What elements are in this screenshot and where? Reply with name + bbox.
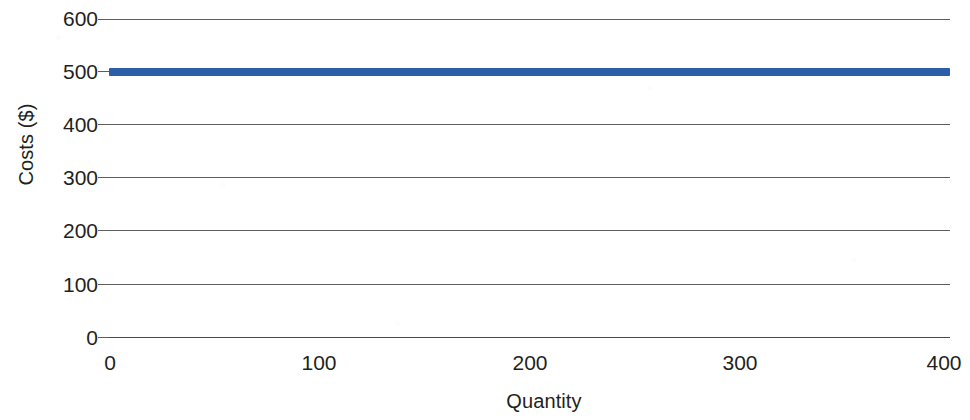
y-tick-stub-600 [98, 19, 109, 20]
gridline-100 [109, 284, 950, 285]
x-tick-label-300: 300 [722, 352, 757, 373]
y-tick-stub-500 [98, 71, 109, 72]
y-tick-stub-400 [98, 124, 109, 125]
y-tick-label-600: 600 [63, 8, 98, 29]
y-tick-stub-200 [98, 230, 109, 231]
x-tick-label-0: 0 [104, 352, 116, 373]
gridline-400 [109, 124, 950, 125]
y-tick-stub-100 [98, 284, 109, 285]
series-line-fixed-costs [109, 68, 950, 76]
y-tick-label-300: 300 [63, 167, 98, 188]
y-tick-label-0: 0 [86, 327, 98, 348]
x-tick-label-100: 100 [301, 352, 336, 373]
x-axis-title: Quantity [506, 390, 581, 413]
x-tick-label-400: 400 [926, 352, 961, 373]
y-tick-stub-0 [98, 337, 109, 338]
y-tick-label-400: 400 [63, 114, 98, 135]
gridline-200 [109, 230, 950, 231]
x-axis-title-wrap: Quantity [0, 390, 970, 413]
y-tick-label-500: 500 [63, 61, 98, 82]
gridline-600 [109, 19, 950, 20]
gridline-300 [109, 177, 950, 178]
cost-curve-chart: Costs ($) 600 500 400 300 200 100 0 0 10… [0, 0, 970, 420]
y-tick-stub-300 [98, 177, 109, 178]
y-tick-label-200: 200 [63, 220, 98, 241]
y-axis-title: Costs ($) [15, 75, 38, 215]
x-axis-baseline [109, 337, 950, 338]
y-tick-label-100: 100 [63, 274, 98, 295]
x-tick-label-200: 200 [512, 352, 547, 373]
